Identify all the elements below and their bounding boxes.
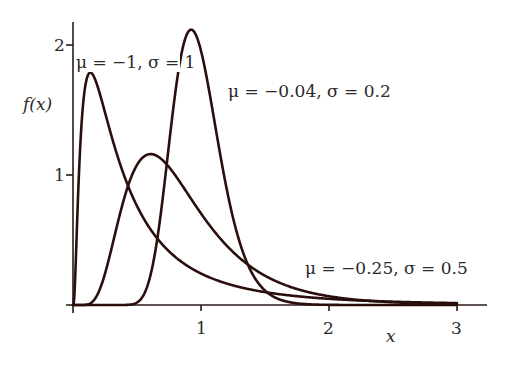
annotation-series1: μ = −1, σ = 1 [76, 52, 195, 72]
curve-mu-neg0.25-sigma-0.5 [73, 154, 457, 305]
x-tick-label-1: 1 [196, 318, 207, 338]
x-tick-label-3: 3 [451, 318, 462, 338]
annotation-series2: μ = −0.04, σ = 0.2 [228, 81, 391, 101]
y-axis-label: f(x) [21, 94, 52, 114]
y-tick-label-2: 2 [54, 35, 65, 55]
annotation-series3: μ = −0.25, σ = 0.5 [305, 258, 468, 278]
y-tick-label-1: 1 [54, 165, 65, 185]
lognormal-density-chart: 1 2 1 2 3 x f(x) μ = −1, σ = 1 μ = −0.04… [0, 0, 507, 367]
x-tick-label-2: 2 [323, 318, 334, 338]
x-axis-label: x [386, 326, 396, 346]
